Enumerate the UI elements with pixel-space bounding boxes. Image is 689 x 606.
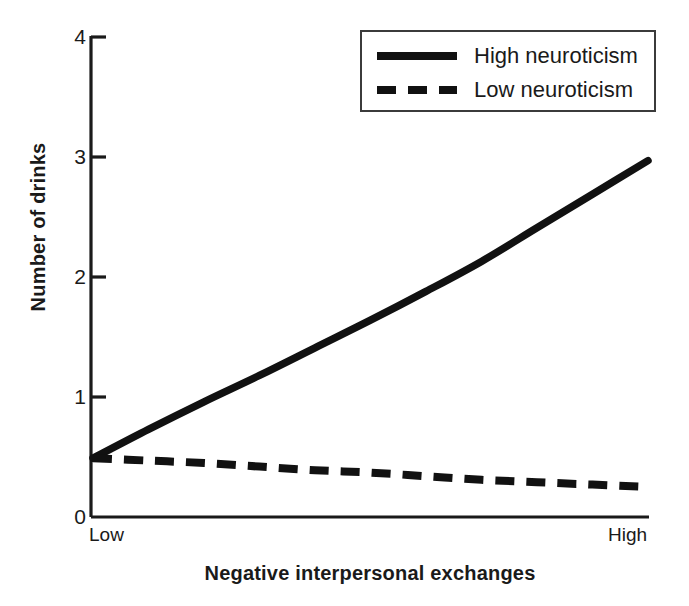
y-axis-title-text: Number of drinks xyxy=(27,143,50,312)
y-tick-label-3: 3 xyxy=(60,146,86,167)
legend-label-low-neuroticism: Low neuroticism xyxy=(474,79,633,101)
x-tick-label-low: Low xyxy=(89,525,124,544)
legend-item-high-neuroticism: High neuroticism xyxy=(362,40,654,72)
y-tick-label-0: 0 xyxy=(60,506,86,527)
series-line-low-neuroticism xyxy=(93,458,648,487)
y-tick-label-1: 1 xyxy=(60,386,86,407)
legend-swatch-dashed-line-icon xyxy=(376,80,458,100)
x-axis-title: Negative interpersonal exchanges xyxy=(90,562,650,585)
legend-swatch-solid-line-icon xyxy=(376,46,458,66)
series-line-high-neuroticism xyxy=(93,161,648,459)
y-tick-label-4: 4 xyxy=(60,26,86,47)
x-tick-label-high: High xyxy=(608,525,647,544)
legend-label-high-neuroticism: High neuroticism xyxy=(474,45,638,67)
chart-figure: 4 3 2 1 0 Low High Number of drinks Nega… xyxy=(0,0,689,606)
legend: High neuroticism Low neuroticism xyxy=(360,30,656,112)
legend-item-low-neuroticism: Low neuroticism xyxy=(362,74,654,106)
y-tick-label-2: 2 xyxy=(60,266,86,287)
y-axis-ticks xyxy=(91,37,106,397)
y-axis-title: Number of drinks xyxy=(23,97,53,357)
